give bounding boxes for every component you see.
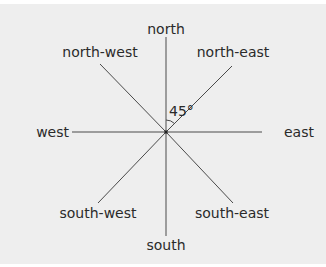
south-west-line bbox=[98, 132, 166, 203]
label-south-west: south-west bbox=[60, 205, 138, 221]
angle-arc-icon bbox=[166, 120, 175, 124]
north-west-line bbox=[100, 64, 166, 132]
label-north-west: north-west bbox=[62, 44, 138, 60]
south-east-line bbox=[166, 132, 233, 203]
label-south-east: south-east bbox=[195, 205, 270, 221]
label-north: north bbox=[147, 21, 185, 37]
angle-label: 45° bbox=[169, 103, 194, 119]
north-east-line bbox=[166, 66, 232, 132]
label-east: east bbox=[284, 124, 314, 140]
label-south: south bbox=[146, 237, 185, 253]
compass-diagram: north north-west north-east west east so… bbox=[0, 0, 326, 267]
center-point bbox=[165, 131, 168, 134]
label-west: west bbox=[36, 124, 69, 140]
label-north-east: north-east bbox=[197, 44, 270, 60]
